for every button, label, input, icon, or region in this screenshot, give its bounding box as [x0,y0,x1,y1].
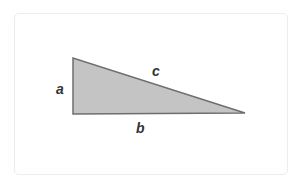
side-a-label: a [56,82,64,96]
triangle-diagram [0,0,307,186]
side-c-label: c [152,64,160,78]
side-b-label: b [136,121,145,135]
